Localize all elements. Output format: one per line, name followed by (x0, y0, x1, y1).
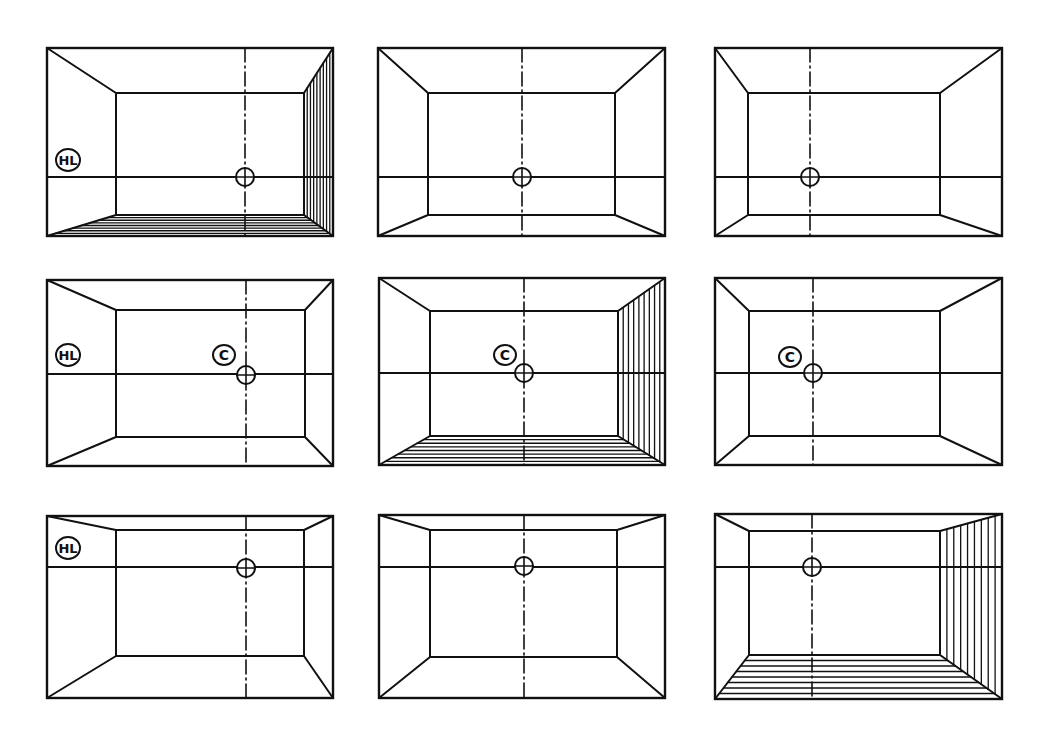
receding-edge (615, 48, 665, 93)
receding-edge (47, 280, 116, 310)
perspective-panel (378, 48, 665, 236)
receding-edge (715, 48, 748, 93)
receding-edge (378, 215, 428, 236)
receding-edge (715, 215, 748, 236)
perspective-panel (715, 48, 1002, 236)
receding-edge (304, 656, 333, 698)
perspective-panel (379, 515, 665, 698)
center-of-vision-label: C (219, 347, 229, 363)
picture-plane-frame (379, 515, 665, 698)
perspective-panel: C (379, 278, 665, 465)
receding-edge (47, 656, 116, 698)
receding-edge (715, 278, 749, 311)
receding-edge (940, 514, 1002, 531)
receding-edge (940, 278, 1002, 311)
horizon-label: HL (58, 348, 77, 363)
picture-plane-frame (47, 516, 333, 698)
receding-edge (47, 516, 116, 530)
perspective-panel: HLC (47, 280, 333, 466)
receding-edge (617, 657, 665, 698)
receding-edge (379, 515, 430, 530)
perspective-diagram-grid: HLHLCCCHL (0, 0, 1042, 735)
receding-edge (304, 516, 333, 530)
receding-edge (47, 48, 116, 93)
receding-edge (379, 278, 430, 311)
receding-edge (715, 514, 749, 531)
perspective-panel: HL (47, 48, 333, 236)
receding-edge (940, 215, 1002, 236)
receding-edge (617, 515, 665, 530)
receding-edge (304, 48, 333, 93)
receding-edge (940, 48, 1002, 93)
receding-edge (47, 437, 116, 466)
receding-edge (378, 48, 428, 93)
shading-hatch (719, 516, 995, 694)
receding-edge (715, 436, 749, 465)
receding-edge (615, 215, 665, 236)
receding-edge (940, 436, 1002, 465)
horizon-label: HL (58, 153, 77, 168)
back-wall (116, 530, 304, 656)
receding-edge (379, 657, 430, 698)
back-wall (749, 531, 940, 655)
receding-edge (305, 437, 333, 466)
center-of-vision-label: C (500, 347, 510, 363)
horizon-label: HL (58, 541, 77, 556)
picture-plane-frame (715, 48, 1002, 236)
receding-edge (618, 278, 665, 311)
center-of-vision-label: C (785, 349, 795, 365)
back-wall (748, 93, 940, 215)
perspective-panel: HL (47, 516, 333, 698)
back-wall (116, 93, 304, 215)
receding-edge (305, 280, 333, 310)
perspective-panel (715, 514, 1002, 699)
perspective-panel: C (715, 278, 1002, 465)
